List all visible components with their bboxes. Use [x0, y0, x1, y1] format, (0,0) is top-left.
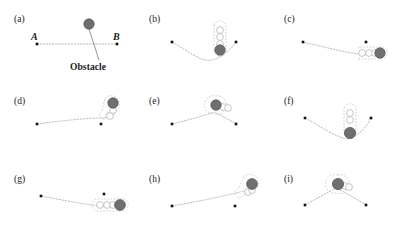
panel-label-7: (h) — [149, 174, 160, 184]
panel-1-goal-point — [235, 41, 238, 44]
obstacle-leader-line — [89, 29, 99, 60]
point-a-label: A — [31, 31, 38, 42]
panel-8-start-point — [304, 204, 307, 207]
panel-5-start-point — [304, 117, 307, 120]
panel-4-obstacle-circle — [211, 100, 221, 110]
panel-5-trajectory-path — [305, 118, 371, 139]
panel-1-robot-marker-0 — [217, 27, 224, 34]
panel-2-goal-point — [365, 41, 368, 44]
panel-8-obstacle-circle — [332, 178, 343, 189]
panel-1-robot-marker-1 — [217, 34, 224, 41]
point-b-label: B — [113, 31, 120, 42]
figure-vector-art — [0, 0, 405, 237]
panel-7-obstacle-circle — [247, 179, 258, 190]
figure-canvas: (a)ABObstacle(b)(c)(d)(e)(f)(g)(h)(i) — [0, 0, 405, 237]
panel-label-1: (b) — [149, 14, 160, 24]
panel-6-obstacle-circle — [115, 200, 126, 211]
panel-7-start-point — [171, 205, 174, 208]
panel-8-goal-point — [365, 204, 368, 207]
panel-6-robot-marker-0 — [97, 202, 104, 209]
panel-label-8: (i) — [284, 174, 293, 184]
panel-4-robot-marker-1 — [225, 105, 232, 112]
panel-2-robot-marker-0 — [359, 50, 366, 57]
panel-7-goal-point — [234, 205, 237, 208]
panel-5-robot-marker-1 — [347, 117, 354, 124]
panel-label-0: (a) — [14, 14, 25, 24]
panel-1-start-point — [171, 41, 174, 44]
panel-3-goal-point — [100, 123, 103, 126]
panel-label-2: (c) — [284, 14, 295, 24]
panel-2-start-point — [302, 41, 305, 44]
panel-1-trajectory-path — [172, 42, 236, 60]
panel-3-trajectory-path — [37, 109, 116, 124]
panel-6-goal-point — [103, 193, 106, 196]
panel-0-goal-point — [116, 43, 119, 46]
panel-4-start-point — [171, 123, 174, 126]
obstacle-text-label: Obstacle — [70, 62, 106, 72]
panel-5-robot-marker-0 — [347, 110, 354, 117]
panel-8-trajectory-path — [305, 188, 366, 205]
panel-1-obstacle-circle — [215, 45, 225, 55]
panel-0-start-point — [36, 43, 39, 46]
panel-3-obstacle-circle — [108, 98, 118, 108]
panel-2-obstacle-circle — [375, 48, 385, 58]
panel-5-goal-point — [370, 117, 373, 120]
panel-6-start-point — [40, 195, 43, 198]
panel-3-start-point — [36, 123, 39, 126]
panel-5-obstacle-circle — [344, 127, 355, 138]
panel-4-trajectory-path — [172, 112, 236, 124]
panel-label-4: (e) — [149, 96, 160, 106]
panel-0-obstacle-circle — [84, 19, 94, 29]
panel-8-robot-marker-1 — [346, 184, 353, 191]
panel-4-goal-point — [235, 123, 238, 126]
panel-label-6: (g) — [14, 174, 25, 184]
panel-label-5: (f) — [284, 96, 294, 106]
panel-7-trajectory-path — [172, 186, 251, 206]
panel-label-3: (d) — [14, 96, 25, 106]
